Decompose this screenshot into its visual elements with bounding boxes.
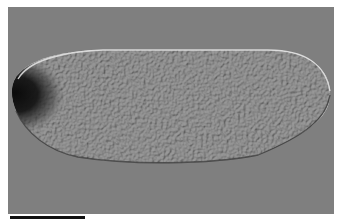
embryo-illustration: [8, 7, 334, 214]
micrograph: [8, 7, 334, 214]
scale-bar: [10, 216, 85, 219]
anterior-pole: [8, 37, 178, 177]
